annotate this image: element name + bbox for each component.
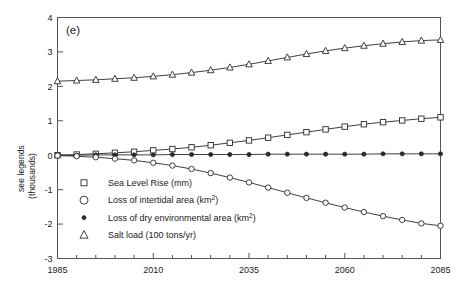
figure-panel-e: see legends (thousands) 1985201020352060… xyxy=(0,0,451,289)
filled-circle-icon xyxy=(82,216,86,220)
x-tick-label: 1985 xyxy=(47,265,67,275)
panel-label: (e) xyxy=(66,24,80,36)
x-tick-label: 2060 xyxy=(335,265,355,275)
y-tick-label: 4 xyxy=(47,13,52,23)
y-tick-label: -1 xyxy=(44,185,52,195)
legend-label: Loss of intertidal area (km2) xyxy=(108,194,218,205)
open-circle-icon xyxy=(80,196,88,204)
legend-label: Salt load (100 tons/yr) xyxy=(108,230,196,240)
y-tick-label: 3 xyxy=(47,47,52,57)
y-tick-label: -2 xyxy=(44,219,52,229)
x-tick-label: 2035 xyxy=(239,265,259,275)
y-axis-label: see legends (thousands) xyxy=(2,96,36,196)
y-tick-label: 2 xyxy=(47,82,52,92)
y-axis-label-line1: see legends xyxy=(16,145,26,192)
legend-label: Sea Level Rise (mm) xyxy=(108,178,192,188)
legend-label: Loss of dry environmental area (km2) xyxy=(108,212,256,223)
open-square-icon xyxy=(81,180,87,186)
chart-canvas: 19852010203520602085 -3-2-101234 Sea Lev… xyxy=(0,0,451,289)
legend-item: Loss of dry environmental area (km2) xyxy=(82,212,256,223)
y-axis-label-line2: (thousands) xyxy=(27,153,37,199)
y-tick-label: 1 xyxy=(47,116,52,126)
x-tick-label: 2010 xyxy=(143,265,163,275)
y-tick-label: 0 xyxy=(47,151,52,161)
x-tick-label: 2085 xyxy=(430,265,450,275)
y-tick-label: -3 xyxy=(44,254,52,264)
